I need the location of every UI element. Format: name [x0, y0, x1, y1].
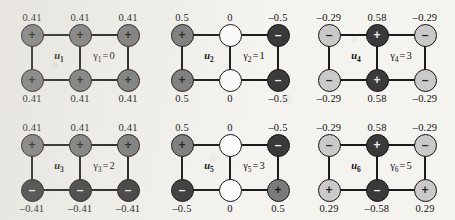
node-value-label: 0.5	[175, 93, 189, 104]
lattice-node[interactable]	[219, 69, 242, 92]
lattice-node[interactable]: –	[117, 179, 140, 202]
node-sign: +	[76, 139, 83, 151]
node-value-label: 0.41	[22, 12, 41, 23]
node-sign: +	[124, 139, 131, 151]
lattice-node[interactable]: +	[366, 134, 389, 157]
lattice-node[interactable]: +	[69, 69, 92, 92]
node-value-label: 0.29	[319, 203, 338, 214]
node-value-label: 0.5	[175, 12, 189, 23]
node-value-label: 0.41	[70, 93, 89, 104]
eigenvalue-label: γ2=1	[243, 50, 265, 64]
lattice-node[interactable]: +	[171, 69, 194, 92]
vector-label: u2	[204, 50, 214, 64]
lattice-node[interactable]: –	[267, 134, 290, 157]
lattice-node[interactable]: –	[318, 69, 341, 92]
node-sign: –	[422, 139, 429, 151]
lattice-node[interactable]: –	[366, 179, 389, 202]
lattice-node[interactable]	[219, 179, 242, 202]
node-value-label: 0.41	[118, 93, 137, 104]
lattice-node[interactable]	[219, 134, 242, 157]
node-sign: –	[125, 184, 132, 196]
lattice-node[interactable]: +	[69, 134, 92, 157]
vector-label: u6	[351, 160, 361, 174]
eigenvalue-equals: =	[400, 50, 406, 61]
lattice-node[interactable]: +	[366, 69, 389, 92]
node-value-label: 0.29	[415, 203, 434, 214]
vector-label: u4	[351, 50, 361, 64]
node-value-label: 0.41	[118, 12, 137, 23]
lattice-node[interactable]: –	[267, 24, 290, 47]
node-value-label: 0.41	[118, 122, 137, 133]
node-value-label: 0.41	[70, 122, 89, 133]
panel-4: +0.41+0.41+0.41––0.41––0.41––0.41u3γ3=2	[0, 110, 150, 220]
node-value-label: 0.41	[70, 12, 89, 23]
panel-1: +0.41+0.41+0.41+0.41+0.41+0.41u1γ1=0	[0, 0, 150, 110]
eigenvalue-equals: =	[103, 160, 109, 171]
panel-3: ––0.29+0.58––0.29––0.29+0.58––0.29u4γ4=3	[297, 0, 447, 110]
lattice-node[interactable]: –	[414, 69, 437, 92]
lattice-node[interactable]: +	[318, 179, 341, 202]
eigenvalue-label: γ3=2	[93, 160, 115, 174]
eigenvalue-equals: =	[400, 160, 406, 171]
lattice-node[interactable]: +	[414, 179, 437, 202]
eigenvalue-subscript: 5	[248, 165, 252, 174]
node-sign: –	[275, 29, 282, 41]
lattice-node[interactable]: –	[171, 179, 194, 202]
node-sign: +	[28, 29, 35, 41]
vector-label: u1	[54, 50, 64, 64]
eigenvalue-value: 3	[260, 160, 265, 171]
eigenvalue-label: γ5=3	[243, 160, 265, 174]
lattice-node[interactable]: +	[267, 179, 290, 202]
lattice-node[interactable]: –	[69, 179, 92, 202]
eigenvalue-subscript: 6	[395, 165, 399, 174]
eigenvalue-value: 1	[260, 50, 265, 61]
node-sign: +	[325, 184, 332, 196]
node-sign: +	[28, 139, 35, 151]
lattice-node[interactable]: +	[171, 134, 194, 157]
node-sign: +	[124, 74, 131, 86]
eigenvalue-subscript: 1	[98, 55, 102, 64]
lattice-node[interactable]: +	[171, 24, 194, 47]
eigenvalue-equals: =	[253, 50, 259, 61]
node-sign: +	[373, 29, 380, 41]
lattice-node[interactable]: –	[267, 69, 290, 92]
node-sign: –	[422, 29, 429, 41]
node-value-label: –0.29	[317, 122, 342, 133]
lattice-node[interactable]: –	[318, 24, 341, 47]
node-value-label: 0.5	[271, 203, 285, 214]
node-value-label: –0.58	[365, 203, 390, 214]
lattice-node[interactable]: +	[21, 69, 44, 92]
lattice-node[interactable]: +	[21, 24, 44, 47]
lattice-node[interactable]: –	[318, 134, 341, 157]
lattice-node[interactable]: +	[117, 134, 140, 157]
node-value-label: 0.41	[22, 122, 41, 133]
eigenvalue-subscript: 4	[395, 55, 399, 64]
lattice-node[interactable]: +	[117, 69, 140, 92]
node-value-label: –0.5	[268, 93, 287, 104]
node-value-label: 0.41	[22, 93, 41, 104]
vector-label-subscript: 1	[60, 55, 64, 64]
lattice-node[interactable]: –	[414, 24, 437, 47]
lattice-node[interactable]: +	[69, 24, 92, 47]
lattice-node[interactable]: +	[366, 24, 389, 47]
node-value-label: –0.29	[413, 122, 438, 133]
node-value-label: –0.41	[68, 203, 93, 214]
eigenvalue-subscript: 2	[248, 55, 252, 64]
eigenvalue-subscript: 3	[98, 165, 102, 174]
node-sign: –	[179, 184, 186, 196]
lattice-node[interactable]	[219, 24, 242, 47]
lattice-node[interactable]: –	[414, 134, 437, 157]
panel-2: +0.50––0.5+0.50––0.5u2γ2=1	[150, 0, 300, 110]
node-value-label: –0.29	[317, 93, 342, 104]
node-sign: –	[29, 184, 36, 196]
eigenvalue-equals: =	[253, 160, 259, 171]
vector-label-subscript: 5	[210, 165, 214, 174]
node-value-label: –0.29	[413, 93, 438, 104]
node-value-label: –0.5	[268, 122, 287, 133]
lattice-node[interactable]: –	[21, 179, 44, 202]
vector-label-subscript: 4	[357, 55, 361, 64]
lattice-node[interactable]: +	[117, 24, 140, 47]
node-value-label: –0.41	[116, 203, 141, 214]
node-sign: +	[274, 184, 281, 196]
lattice-node[interactable]: +	[21, 134, 44, 157]
